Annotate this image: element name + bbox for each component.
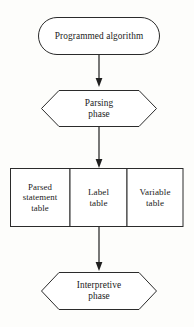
shape-interpretive-phase[interactable] xyxy=(42,273,157,310)
edge-parsing-to-tables-arrowhead xyxy=(96,159,103,168)
shape-parsing-phase[interactable] xyxy=(42,91,157,127)
flowchart-diagram: Programmed algorithm Parsing phase Parse… xyxy=(0,0,194,327)
shape-programmed-algorithm[interactable] xyxy=(39,18,160,55)
shape-parsed-statement-table[interactable] xyxy=(11,169,71,227)
edge-algorithm-to-parsing-arrowhead xyxy=(96,78,103,87)
shape-label-table[interactable] xyxy=(70,169,127,227)
shape-variable-table[interactable] xyxy=(127,169,183,227)
flowchart-canvas xyxy=(0,0,194,327)
edge-tables-to-interpretive-arrowhead xyxy=(96,262,103,271)
